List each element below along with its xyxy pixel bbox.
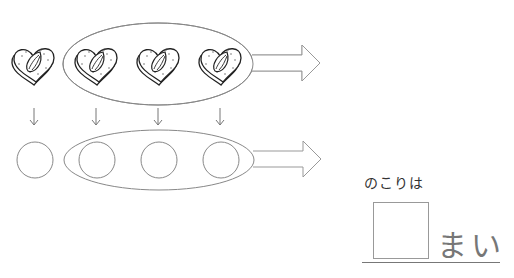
taken-circles-ellipse xyxy=(64,130,254,190)
down-arrow-icon xyxy=(30,108,38,125)
down-arrow-icon xyxy=(216,108,224,125)
cookie-icon xyxy=(12,49,54,85)
answer-box[interactable] xyxy=(373,202,429,259)
unit-label: まい xyxy=(437,221,505,265)
circle-placeholder xyxy=(17,142,53,178)
down-arrow-icon xyxy=(92,108,100,125)
down-arrow-icon xyxy=(154,108,162,125)
answer-underline xyxy=(362,262,500,263)
remaining-label: のこりは xyxy=(364,172,424,192)
lower-arrow xyxy=(253,141,321,177)
